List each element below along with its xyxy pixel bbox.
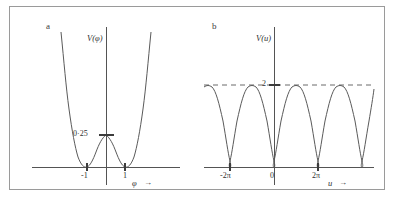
panel-b-x-axis-title: u: [328, 178, 332, 188]
panel-b-xtick-label-zero: 0: [270, 171, 274, 180]
panel-a-plot: [10, 7, 198, 191]
panel-b: b V(u) 2 -2π 0 2π u: [198, 7, 386, 191]
panel-a-x-axis-arrow-icon: →: [144, 178, 152, 187]
panel-b-xtick-label-plus2pi: 2π: [312, 171, 320, 180]
panel-a-y-axis-title: V(φ): [87, 33, 103, 43]
figure-root: a V(φ) 0·25 -1 1 φ →: [0, 0, 401, 200]
panel-a-xtick-label-plus1: 1: [123, 171, 127, 180]
figure-border: a V(φ) 0·25 -1 1 φ →: [9, 6, 385, 190]
panel-b-plot: [198, 7, 386, 191]
panel-b-y-axis-title: V(u): [256, 33, 271, 43]
panel-a: a V(φ) 0·25 -1 1 φ →: [10, 7, 198, 191]
panel-b-ytick-label-2: 2: [262, 79, 266, 88]
panel-b-curve-sine-gordon: [204, 86, 374, 168]
panel-a-x-axis-title: φ: [132, 178, 137, 188]
panel-a-xtick-label-minus1: -1: [81, 171, 88, 180]
panel-b-xtick-label-minus2pi: -2π: [220, 171, 231, 180]
panel-b-x-axis-arrow-icon: →: [339, 178, 347, 187]
panel-a-ytick-label-025: 0·25: [73, 129, 88, 138]
